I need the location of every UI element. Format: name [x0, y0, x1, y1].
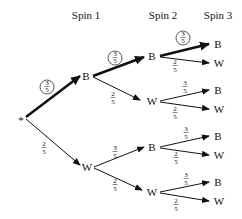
prob-bw-bwb: 3 5 — [183, 79, 188, 95]
prob-root-w: 2 5 — [42, 140, 47, 156]
svg-text:3: 3 — [184, 171, 188, 179]
svg-text:3: 3 — [184, 125, 188, 133]
edge-wb-to-wbw — [160, 148, 209, 155]
svg-text:2: 2 — [42, 140, 46, 148]
svg-text:5: 5 — [181, 37, 185, 45]
edge-ww-to-www — [160, 193, 209, 201]
svg-text:5: 5 — [113, 185, 117, 193]
svg-text:5: 5 — [45, 86, 49, 94]
spin2-node-bw: W — [147, 95, 158, 107]
svg-text:5: 5 — [111, 98, 115, 106]
edge-w-to-wb — [94, 147, 144, 167]
root-node: * — [18, 114, 24, 126]
edge-bw-to-bww — [160, 102, 209, 109]
svg-text:5: 5 — [174, 205, 178, 213]
spin2-node-bb: B — [148, 50, 155, 62]
spin3-node-wwb: B — [214, 176, 221, 188]
spin1-node-w: W — [82, 161, 93, 173]
svg-text:2: 2 — [174, 197, 178, 205]
prob-bw-bww: 2 5 — [173, 105, 178, 121]
prob-b-bw: 2 5 — [111, 90, 116, 106]
spin3-node-wbb: B — [214, 130, 221, 142]
prob-wb-wbw: 2 5 — [174, 150, 179, 166]
spin3-node-bbb: B — [214, 38, 221, 50]
svg-text:5: 5 — [183, 87, 187, 95]
prob-root-b: 3 5 — [40, 79, 54, 94]
svg-text:5: 5 — [184, 179, 188, 187]
spin2-node-ww: W — [147, 186, 158, 198]
prob-w-ww: 2 5 — [113, 177, 118, 193]
header-spin-2: Spin 2 — [149, 9, 177, 21]
svg-text:3: 3 — [183, 79, 187, 87]
svg-text:5: 5 — [184, 133, 188, 141]
edge-b-to-bw — [93, 77, 140, 100]
svg-text:5: 5 — [42, 148, 46, 156]
spin3-node-bww: W — [214, 103, 225, 115]
spin2-node-wb: B — [148, 141, 155, 153]
svg-text:2: 2 — [174, 150, 178, 158]
prob-bb-bbb: 3 5 — [176, 30, 190, 45]
edge-bb-to-bbw — [160, 57, 209, 63]
prob-wb-wbb: 3 5 — [184, 125, 189, 141]
svg-text:5: 5 — [113, 152, 117, 160]
spin3-node-bwb: B — [214, 84, 221, 96]
spin3-node-bbw: W — [214, 57, 225, 69]
edge-w-to-ww — [94, 168, 142, 190]
svg-text:2: 2 — [111, 90, 115, 98]
header-spin-1: Spin 1 — [72, 9, 100, 21]
svg-text:2: 2 — [173, 105, 177, 113]
header-spin-3: Spin 3 — [204, 9, 233, 21]
svg-text:5: 5 — [173, 113, 177, 121]
prob-ww-wwb: 3 5 — [184, 171, 189, 187]
edge-b-to-bb — [93, 57, 144, 76]
edge-root-to-b — [26, 76, 80, 117]
svg-text:5: 5 — [173, 66, 177, 74]
spin3-node-www: W — [214, 195, 225, 207]
edge-bb-to-bbb — [160, 44, 209, 56]
svg-text:3: 3 — [113, 144, 117, 152]
spin1-node-b: B — [82, 70, 89, 82]
svg-text:2: 2 — [113, 177, 117, 185]
spin3-node-wbw: W — [214, 149, 225, 161]
svg-text:2: 2 — [173, 58, 177, 66]
prob-ww-www: 2 5 — [174, 197, 179, 213]
prob-b-bb: 3 5 — [108, 50, 122, 65]
svg-text:5: 5 — [174, 158, 178, 166]
prob-bb-bbw: 2 5 — [173, 58, 178, 74]
edge-root-to-w — [26, 119, 80, 165]
probability-tree-diagram: Spin 1 Spin 2 Spin 3 * 3 5 2 5 B W 3 5 2… — [0, 0, 242, 219]
svg-text:5: 5 — [113, 57, 117, 65]
